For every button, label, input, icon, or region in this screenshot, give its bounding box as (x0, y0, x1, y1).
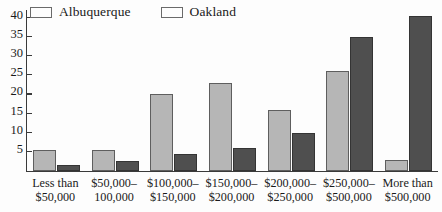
y-axis-tick-label: 20 (11, 85, 24, 98)
y-axis-tick: 25 (1, 74, 27, 75)
x-axis-label-line: $200,000– (261, 176, 320, 190)
x-axis-label-line: 100,000 (85, 190, 144, 204)
x-axis-labels: Less than$50,000$50,000–100,000$100,000–… (26, 176, 438, 210)
y-axis-tick: 35 (1, 36, 27, 37)
legend-label-oakland: Oakland (190, 5, 236, 19)
bar-albuquerque (385, 160, 408, 172)
bar-group (379, 10, 438, 171)
x-axis-label-line: $150,000– (202, 176, 261, 190)
bar-oakland (292, 133, 315, 171)
bar-albuquerque (150, 94, 173, 171)
y-axis-tick-label: 30 (11, 47, 24, 60)
bar-group (27, 10, 86, 171)
bar-group (144, 10, 203, 171)
bar-albuquerque (92, 150, 115, 171)
bars-layer (27, 10, 438, 171)
bar-oakland (409, 16, 432, 171)
x-axis-label-line: $100,000– (143, 176, 202, 190)
y-axis-tick: 40 (1, 17, 27, 18)
bar-oakland (174, 154, 197, 171)
x-axis-label-line: $50,000 (26, 190, 85, 204)
x-axis-label-line: $500,000 (320, 190, 379, 204)
x-axis-label-line: $200,000 (202, 190, 261, 204)
x-axis-label: $50,000–100,000 (85, 176, 144, 204)
y-axis-tick-label: 40 (11, 9, 24, 22)
x-axis-label: $200,000–$250,000 (261, 176, 320, 204)
bar-group (86, 10, 145, 171)
x-axis-label-line: $500,000 (378, 190, 437, 204)
x-axis-label-line: More than (378, 176, 437, 190)
bar-oakland (350, 37, 373, 171)
bar-group (321, 10, 380, 171)
y-axis-tick: 20 (1, 93, 27, 94)
x-axis-label-line: $250,000– (320, 176, 379, 190)
y-axis-tick: 10 (1, 132, 27, 133)
y-axis-tick-label: 35 (11, 28, 24, 41)
legend-label-albuquerque: Albuquerque (59, 5, 131, 19)
x-axis-label: $100,000–$150,000 (143, 176, 202, 204)
bar-group (203, 10, 262, 171)
legend-entry-albuquerque: Albuquerque (30, 5, 131, 19)
legend-swatch-oakland (161, 7, 183, 18)
y-axis-tick: 30 (1, 55, 27, 56)
bar-albuquerque (33, 150, 56, 171)
bar-oakland (57, 165, 80, 171)
x-axis-label-line: $150,000 (143, 190, 202, 204)
plot-area: 510152025303540 (26, 10, 438, 172)
x-axis-label-line: Less than (26, 176, 85, 190)
bar-oakland (116, 161, 139, 171)
legend-swatch-albuquerque (30, 7, 52, 18)
bar-albuquerque (209, 83, 232, 171)
y-axis-tick-label: 10 (11, 124, 24, 137)
y-axis-tick-label: 25 (11, 66, 24, 79)
y-axis-tick: 5 (1, 151, 27, 152)
x-axis-label: Less than$50,000 (26, 176, 85, 204)
x-axis-label: More than$500,000 (378, 176, 437, 204)
bar-albuquerque (268, 110, 291, 171)
y-axis-tick-label: 15 (11, 105, 24, 118)
legend-entry-oakland: Oakland (161, 5, 236, 19)
bar-albuquerque (326, 71, 349, 171)
x-axis-label-line: $250,000 (261, 190, 320, 204)
x-axis-label: $250,000–$500,000 (320, 176, 379, 204)
bar-chart: Albuquerque Oakland 510152025303540 Less… (0, 0, 442, 212)
y-axis-tick: 15 (1, 113, 27, 114)
bar-group (262, 10, 321, 171)
x-axis-label: $150,000–$200,000 (202, 176, 261, 204)
chart-legend: Albuquerque Oakland (30, 3, 236, 21)
x-axis-label-line: $50,000– (85, 176, 144, 190)
bar-oakland (233, 148, 256, 171)
y-axis-tick-label: 5 (17, 143, 23, 156)
